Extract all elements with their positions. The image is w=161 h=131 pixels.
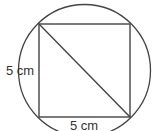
- left-side-label: 5 cm: [6, 63, 34, 78]
- inscribed-square-diagram: 5 cm 5 cm: [0, 0, 161, 131]
- bottom-side-label: 5 cm: [70, 118, 98, 131]
